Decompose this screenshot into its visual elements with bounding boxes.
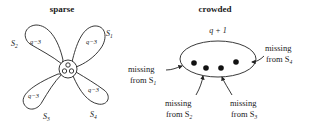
arrow-s2 xyxy=(196,76,203,95)
svg-text:missing: missing xyxy=(230,98,257,108)
annotation-s3: missing from S3 xyxy=(230,98,257,120)
set-label-s4: S4 xyxy=(90,110,97,120)
arrow-s1 xyxy=(166,66,182,70)
set-label-s1: S1 xyxy=(106,29,113,39)
petal-s1-size: q−3 xyxy=(86,38,98,45)
petal-s3-size: q−3 xyxy=(28,92,40,99)
petal-s2-size: q−3 xyxy=(30,38,42,45)
svg-text:missing: missing xyxy=(165,98,192,108)
dot xyxy=(218,65,224,71)
crowded-set: q + 1 missing from S1 missing from S2 mi… xyxy=(128,26,292,120)
svg-text:from S4: from S4 xyxy=(266,54,292,65)
dot xyxy=(203,65,209,71)
petal-s1 xyxy=(72,26,105,67)
svg-text:missing: missing xyxy=(265,43,292,53)
diagram-canvas: sparse q−3 q−3 q−3 q−3 S1 S2 S3 S4 crowd… xyxy=(0,0,313,129)
annotation-s4: missing from S4 xyxy=(265,43,292,65)
svg-text:from S2: from S2 xyxy=(166,109,192,120)
petal-s4-size: q−3 xyxy=(88,86,100,93)
svg-text:from S1: from S1 xyxy=(130,75,156,86)
crowded-title: crowded xyxy=(199,4,232,14)
crowded-ellipse xyxy=(180,41,256,77)
annotation-s2: missing from S2 xyxy=(165,98,192,120)
dot xyxy=(233,59,239,65)
arrow-s4 xyxy=(252,56,264,62)
set-label-s3: S3 xyxy=(43,112,50,122)
svg-text:from S3: from S3 xyxy=(231,109,257,120)
annotation-s1: missing from S1 xyxy=(128,64,156,86)
dot xyxy=(191,60,197,66)
sparse-title: sparse xyxy=(50,4,75,14)
set-label-s2: S2 xyxy=(11,39,18,49)
svg-text:missing: missing xyxy=(128,64,155,74)
sparse-sunflower: q−3 q−3 q−3 q−3 S1 S2 S3 S4 xyxy=(11,25,113,122)
ellipse-size-label: q + 1 xyxy=(209,26,226,35)
arrow-s3 xyxy=(222,77,232,95)
